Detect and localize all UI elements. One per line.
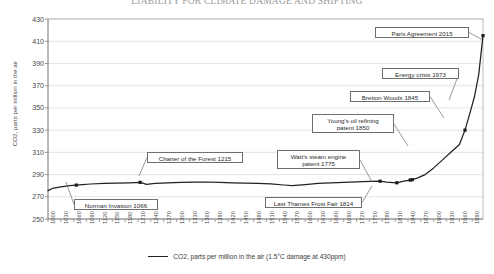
annotation-text: Watt's steam engine <box>281 153 356 160</box>
annotation-text: Norman Invasion 1066 <box>78 202 154 209</box>
x-axis-tick-label: 1360 <box>204 211 210 224</box>
chart-legend: CO2, parts per million in the air (1.5°C… <box>0 253 494 260</box>
annotation-text: patent 1850 <box>316 124 390 131</box>
x-axis-tick-label: 1390 <box>217 211 223 224</box>
x-axis-tick-label: 1240 <box>153 211 159 224</box>
x-axis-tick-label: 1720 <box>359 211 365 224</box>
x-axis-tick-label: 1600 <box>307 211 313 224</box>
annotation-callout-charter: Charter of the Forest 1215 <box>147 152 243 163</box>
annotation-text: Bretton Woods 1845 <box>354 94 426 101</box>
annotation-text: Last Thames Frost Fair 1814 <box>269 200 358 207</box>
annotation-text: Paris Agreement 2015 <box>379 30 465 37</box>
x-axis-tick-label: 1540 <box>282 211 288 224</box>
x-axis-tick-label: 1330 <box>192 211 198 224</box>
legend-line-swatch <box>148 256 168 257</box>
co2-line-chart: LIABILITY FOR CLIMATE DAMAGE AND SHIFTIN… <box>0 0 494 274</box>
x-axis-tick-label: 1210 <box>140 211 146 224</box>
x-axis-tick-label: 1630 <box>320 211 326 224</box>
legend-label: CO2, parts per million in the air (1.5°C… <box>173 253 345 260</box>
x-axis-tick-label: 1960 <box>462 211 468 224</box>
annotation-text: Energy crisis 1973 <box>386 71 455 78</box>
x-axis-tick-label: 1480 <box>256 211 262 224</box>
x-axis-tick-label: 1840 <box>410 211 416 224</box>
x-axis-tick-label: 1930 <box>449 211 455 224</box>
x-axis-tick-label: 1570 <box>294 211 300 224</box>
x-axis-tick-label: 1270 <box>166 211 172 224</box>
x-axis-tick-label: 1300 <box>179 211 185 224</box>
annotation-callout-young: Young's oil refiningpatent 1850 <box>312 114 394 133</box>
x-axis-tick-label: 1450 <box>243 211 249 224</box>
x-axis-tick-label: 1060 <box>76 211 82 224</box>
x-axis-tick-label: 1690 <box>346 211 352 224</box>
annotation-callout-energy: Energy crisis 1973 <box>382 68 459 79</box>
plot-area <box>0 0 494 274</box>
annotation-text: Young's oil refining <box>316 117 390 124</box>
annotation-callout-watt: Watt's steam enginepatent 1775 <box>277 150 360 169</box>
annotation-callout-norman: Norman Invasion 1066 <box>74 199 158 210</box>
annotation-text: Charter of the Forest 1215 <box>151 155 239 162</box>
x-axis-tick-label: 1750 <box>372 211 378 224</box>
x-axis-tick-label: 1120 <box>102 212 108 224</box>
annotation-callout-paris: Paris Agreement 2015 <box>375 27 469 38</box>
x-axis-tick-label: 1000 <box>50 211 56 224</box>
x-axis-tick-label: 1090 <box>89 211 95 224</box>
x-axis-tick-label: 1150 <box>114 212 120 224</box>
x-axis-tick-label: 1810 <box>397 211 403 224</box>
x-axis-tick-label: 1420 <box>230 211 236 224</box>
annotation-callout-bretton: Bretton Woods 1845 <box>350 91 430 102</box>
x-axis-tick-label: 1900 <box>436 211 442 224</box>
annotation-callout-frost: Last Thames Frost Fair 1814 <box>265 197 362 208</box>
annotation-text: patent 1775 <box>281 160 356 167</box>
x-axis-tick-label: 1870 <box>423 211 429 224</box>
x-axis-tick-label: 1180 <box>127 212 133 224</box>
x-axis-tick-label: 1510 <box>269 211 275 224</box>
x-axis-tick-label: 1780 <box>384 211 390 224</box>
x-axis-tick-label: 1990 <box>474 211 480 224</box>
x-axis-tick-label: 1030 <box>63 211 69 224</box>
x-axis-tick-label: 1660 <box>333 211 339 224</box>
